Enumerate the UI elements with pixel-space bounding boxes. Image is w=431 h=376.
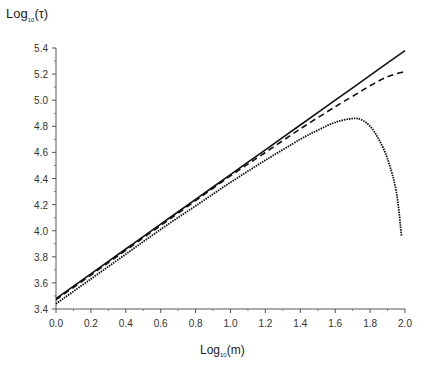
y-tick-label: 4.6	[34, 147, 48, 158]
y-tick: 4.8	[34, 113, 56, 132]
x-axis-label-sub: 10	[220, 352, 227, 358]
x-tick-label: 1.6	[328, 318, 342, 329]
x-tick-label: 2.0	[398, 318, 412, 329]
y-tick: 3.8	[34, 244, 56, 263]
y-tick: 3.4	[34, 296, 56, 315]
x-tick: 1.0	[224, 309, 248, 329]
y-tick-label: 3.6	[34, 278, 48, 289]
x-axis-label-prefix: Log	[200, 343, 220, 357]
x-tick-label: 0.6	[154, 318, 168, 329]
x-tick-label: 1.0	[224, 318, 238, 329]
y-tick: 3.6	[34, 270, 56, 289]
x-tick-label: 0.0	[49, 318, 63, 329]
x-tick: 2.0	[398, 309, 412, 329]
y-tick-label: 4.8	[34, 121, 48, 132]
x-tick-label: 0.8	[189, 318, 203, 329]
x-tick: 1.2	[258, 309, 282, 329]
y-tick: 5.4	[34, 43, 56, 54]
line-chart: 3.43.63.84.04.24.44.64.85.05.25.40.00.20…	[0, 0, 431, 376]
x-tick: 0.2	[84, 309, 108, 329]
series-lines	[56, 51, 405, 304]
y-tick-label: 3.4	[34, 304, 48, 315]
x-tick: 0.6	[154, 309, 178, 329]
y-tick-label: 4.4	[34, 174, 48, 185]
x-tick: 1.8	[363, 309, 387, 329]
y-tick: 5.2	[34, 61, 56, 80]
y-tick-label: 5.2	[34, 69, 48, 80]
x-tick-label: 1.4	[293, 318, 307, 329]
series-solid-line	[56, 51, 405, 299]
x-tick: 1.6	[328, 309, 352, 329]
x-tick-label: 0.4	[119, 318, 133, 329]
y-tick-label: 3.8	[34, 252, 48, 263]
x-axis-label: Log10(m)	[200, 343, 245, 358]
y-tick: 4.4	[34, 165, 56, 184]
x-tick: 0.8	[189, 309, 213, 329]
x-axis-label-suffix: (m)	[227, 343, 245, 357]
y-tick-label: 4.0	[34, 226, 48, 237]
x-tick: 1.4	[293, 309, 317, 329]
series-dashed-line	[56, 72, 405, 300]
y-tick-label: 5.0	[34, 95, 48, 106]
y-tick: 5.0	[34, 87, 56, 106]
x-tick: 0.4	[119, 309, 143, 329]
y-tick: 4.2	[34, 192, 56, 211]
series-dotted-line	[56, 118, 402, 303]
x-tick-label: 1.2	[258, 318, 272, 329]
y-tick-label: 5.4	[34, 43, 48, 54]
y-tick-label: 4.2	[34, 200, 48, 211]
x-tick: 0.0	[49, 309, 73, 329]
y-tick: 4.6	[34, 139, 56, 158]
x-tick-label: 0.2	[84, 318, 98, 329]
x-tick-label: 1.8	[363, 318, 377, 329]
y-tick: 4.0	[34, 218, 56, 237]
